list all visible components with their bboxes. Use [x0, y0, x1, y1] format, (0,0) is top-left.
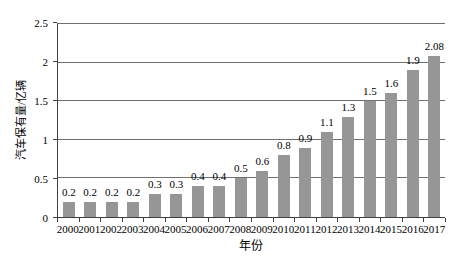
x-tick-label-2015: 2015	[380, 224, 402, 235]
bar-2008	[235, 178, 247, 217]
x-tick-label-2005: 2005	[165, 224, 187, 235]
x-tick-mark-17	[423, 218, 424, 222]
x-tick-label-2003: 2003	[121, 224, 143, 235]
value-label-2015: 1.6	[384, 78, 398, 89]
y-tick-label-1.5: 1.5	[34, 96, 48, 107]
bar-2013	[342, 117, 354, 217]
x-tick-mark-13	[337, 218, 338, 222]
x-tick-mark-8	[229, 218, 230, 222]
bar-2000	[63, 202, 75, 217]
bar-2007	[213, 186, 225, 217]
bar-2009	[256, 171, 268, 217]
bar-2004	[149, 194, 161, 217]
value-label-2004: 0.3	[148, 179, 162, 190]
bar-2016	[407, 70, 419, 217]
x-tick-label-2009: 2009	[251, 224, 273, 235]
x-tick-label-2001: 2001	[78, 224, 100, 235]
value-label-2014: 1.5	[363, 86, 377, 97]
x-tick-mark-10	[273, 218, 274, 222]
value-label-2000: 0.2	[62, 187, 76, 198]
y-tick-label-2: 2	[43, 57, 49, 68]
bar-2006	[192, 186, 204, 217]
value-label-2002: 0.2	[105, 187, 119, 198]
value-label-2003: 0.2	[126, 187, 140, 198]
value-label-2009: 0.6	[255, 156, 269, 167]
x-axis-ticks: 2000200120022003200420052006200720082009…	[57, 218, 445, 240]
value-label-2005: 0.3	[169, 179, 183, 190]
x-tick-mark-12	[316, 218, 317, 222]
x-tick-mark-14	[359, 218, 360, 222]
y-tick-label-0: 0	[43, 213, 49, 224]
x-tick-label-2014: 2014	[359, 224, 381, 235]
value-label-2011: 0.9	[298, 133, 312, 144]
bar-2001	[84, 202, 96, 217]
y-tick-label-1: 1	[43, 135, 49, 146]
x-tick-label-2010: 2010	[272, 224, 294, 235]
x-tick-mark-0	[57, 218, 58, 222]
bar-2015	[385, 93, 397, 217]
value-label-2016: 1.9	[406, 55, 420, 66]
x-tick-mark-3	[122, 218, 123, 222]
x-tick-label-2006: 2006	[186, 224, 208, 235]
x-tick-label-2007: 2007	[208, 224, 230, 235]
x-tick-label-2011: 2011	[294, 224, 316, 235]
x-axis-title: 年份	[57, 240, 445, 252]
bar-2010	[278, 155, 290, 217]
value-label-2017: 2.08	[425, 41, 444, 52]
value-label-2010: 0.8	[277, 140, 291, 151]
y-tick-label-0.5: 0.5	[34, 174, 48, 185]
x-tick-label-2016: 2016	[402, 224, 424, 235]
x-tick-mark-18	[445, 218, 446, 222]
x-tick-label-2000: 2000	[57, 224, 79, 235]
y-axis-ticks: 00.511.522.5	[0, 23, 57, 218]
x-tick-mark-7	[208, 218, 209, 222]
bar-chart-figure: 汽车保有量/亿辆 00.511.522.5 0.20.20.20.20.30.3…	[0, 0, 467, 268]
bar-2011	[299, 148, 311, 217]
x-tick-mark-1	[79, 218, 80, 222]
value-label-2006: 0.4	[191, 171, 205, 182]
bar-2014	[364, 101, 376, 217]
bar-2002	[106, 202, 118, 217]
value-label-2008: 0.5	[234, 163, 248, 174]
x-tick-label-2002: 2002	[100, 224, 122, 235]
bar-2017	[428, 56, 440, 217]
gridline-2	[58, 62, 445, 63]
y-tick-label-2.5: 2.5	[34, 18, 48, 29]
x-tick-label-2017: 2017	[423, 224, 445, 235]
x-tick-mark-4	[143, 218, 144, 222]
x-tick-mark-2	[100, 218, 101, 222]
x-tick-label-2004: 2004	[143, 224, 165, 235]
value-label-2001: 0.2	[83, 187, 97, 198]
plot-area: 0.20.20.20.20.30.30.40.40.50.60.80.91.11…	[57, 23, 445, 218]
value-label-2007: 0.4	[212, 171, 226, 182]
x-tick-mark-6	[186, 218, 187, 222]
x-tick-mark-16	[402, 218, 403, 222]
value-label-2012: 1.1	[320, 117, 334, 128]
x-tick-mark-15	[380, 218, 381, 222]
x-tick-mark-9	[251, 218, 252, 222]
x-tick-mark-5	[165, 218, 166, 222]
value-label-2013: 1.3	[341, 102, 355, 113]
x-tick-label-2013: 2013	[337, 224, 359, 235]
bar-2012	[321, 132, 333, 217]
bar-2003	[127, 202, 139, 217]
bar-2005	[170, 194, 182, 217]
x-tick-label-2008: 2008	[229, 224, 251, 235]
x-tick-label-2012: 2012	[315, 224, 337, 235]
x-tick-mark-11	[294, 218, 295, 222]
